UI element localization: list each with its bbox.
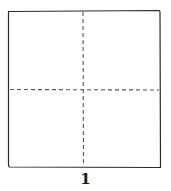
fold-diagram <box>0 0 171 191</box>
step-number: 1 <box>0 172 171 187</box>
paper-square <box>9 11 161 168</box>
